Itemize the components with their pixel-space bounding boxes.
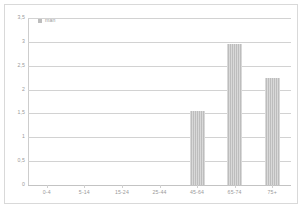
x-axis-tick [84,185,85,188]
x-axis-tick-label: 65-74 [216,189,254,195]
x-axis-tick [47,185,48,188]
y-axis-tick-label: 3 [1,39,25,44]
x-axis-tick [197,185,198,188]
x-axis-tick-label: 5-14 [66,189,104,195]
x-axis-tick [122,185,123,188]
x-axis-tick [272,185,273,188]
x-axis-tick-label: 45-64 [178,189,216,195]
bars-layer [28,18,291,185]
legend-swatch-icon [38,19,42,23]
y-axis-labels: 00,511,522,533,5 [0,18,25,185]
y-axis-tick-label: 3,5 [1,15,25,20]
plot-area [28,18,291,185]
legend-label: man [45,18,56,23]
y-axis-tick-label: 2 [1,87,25,92]
x-axis-tick-label: 0-4 [28,189,66,195]
y-axis-tick-label: 1,5 [1,110,25,115]
x-axis-tick [160,185,161,188]
x-axis-labels: 0-45-1415-2425-4445-6465-7475+ [28,189,291,201]
x-axis-tick-label: 15-24 [103,189,141,195]
x-axis-tick [235,185,236,188]
x-axis-tick-label: 25-44 [141,189,179,195]
bar [265,78,280,185]
bar [227,44,242,185]
x-axis-tick-label: 75+ [253,189,291,195]
y-axis-tick-label: 2,5 [1,63,25,68]
y-axis-tick-label: 0,5 [1,158,25,163]
bar [190,111,205,185]
chart-legend: man [38,18,56,23]
y-axis-tick-label: 0 [1,182,25,187]
y-axis-tick-label: 1 [1,134,25,139]
bar-chart: 00,511,522,533,5 0-45-1415-2425-4445-646… [0,0,302,214]
